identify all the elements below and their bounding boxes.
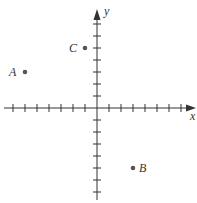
x-axis-label: x xyxy=(189,109,196,123)
coordinate-plane: ABC x y xyxy=(0,0,197,203)
y-axis-arrow-icon xyxy=(94,9,101,20)
y-axis-label: y xyxy=(103,4,110,18)
point-label: A xyxy=(8,65,17,79)
axes xyxy=(4,9,196,200)
point-a: A xyxy=(8,65,27,79)
point-marker xyxy=(83,46,88,51)
point-label: B xyxy=(139,161,147,175)
point-b: B xyxy=(131,161,147,175)
point-label: C xyxy=(69,41,78,55)
point-marker xyxy=(131,166,136,171)
point-c: C xyxy=(69,41,87,55)
point-marker xyxy=(23,70,28,75)
